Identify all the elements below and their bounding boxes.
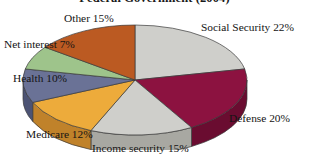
- chart-title: Federal Government (2004): [0, 0, 309, 6]
- slice-label-income-security: Income security 15%: [92, 143, 189, 155]
- slice-label-health: Health 10%: [13, 73, 67, 85]
- slice-label-social-security: Social Security 22%: [201, 22, 294, 34]
- slice-label-other: Other 15%: [64, 13, 114, 25]
- slice-label-net-interest: Net interest 7%: [4, 39, 75, 51]
- slice-label-defense: Defense 20%: [229, 113, 290, 125]
- slice-label-medicare: Medicare 12%: [26, 129, 93, 141]
- pie-chart-figure: Federal Government (2004) Other 15% Soci…: [0, 0, 309, 161]
